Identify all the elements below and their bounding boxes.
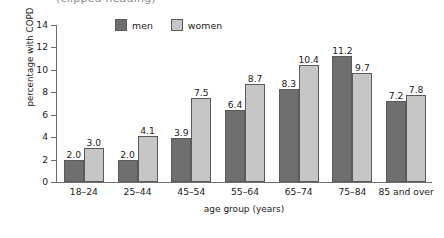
y-tick: 6 — [51, 115, 56, 116]
x-category-label: 45–54 — [177, 186, 205, 197]
y-tick-label: 8 — [42, 86, 48, 97]
bar-value-label: 10.4 — [298, 55, 318, 65]
bar-men: 11.2 — [332, 56, 352, 182]
x-category-label: 55–64 — [231, 186, 259, 197]
bar-women: 7.5 — [191, 98, 211, 182]
bar-value-label: 11.2 — [332, 46, 352, 56]
y-tick: 12 — [51, 47, 56, 48]
bar-women: 8.7 — [245, 84, 265, 182]
x-category-label: 18–24 — [70, 186, 98, 197]
y-tick-label: 6 — [42, 109, 48, 120]
x-axis-line — [56, 182, 432, 183]
plot-area: 02468101214 2.03.02.04.13.97.56.48.78.31… — [56, 25, 432, 182]
y-tick-label: 4 — [42, 131, 48, 142]
bar-women: 9.7 — [352, 73, 372, 182]
bar-women: 4.1 — [138, 136, 158, 182]
y-tick: 8 — [51, 92, 56, 93]
bar-men: 2.0 — [118, 160, 138, 182]
bar-value-label: 7.5 — [194, 88, 209, 98]
bar-women: 7.8 — [406, 95, 426, 182]
x-category-label: 85 and over — [378, 186, 433, 197]
x-axis-title: age group (years) — [56, 204, 432, 214]
x-category-label: 75–84 — [338, 186, 366, 197]
bar-value-label: 8.3 — [281, 79, 296, 89]
bar-men: 6.4 — [225, 110, 245, 182]
y-axis-line — [56, 25, 57, 182]
y-tick: 0 — [51, 182, 56, 183]
bar-value-label: 6.4 — [228, 100, 243, 110]
y-tick: 2 — [51, 160, 56, 161]
y-tick-label: 0 — [42, 176, 48, 187]
y-axis-title: percentage with COPD — [25, 0, 35, 127]
bar-men: 3.9 — [171, 138, 191, 182]
x-category-label: 65–74 — [285, 186, 313, 197]
copd-bar-chart: (clipped heading) percentage with COPD m… — [0, 0, 444, 238]
bar-value-label: 3.9 — [174, 128, 189, 138]
bar-value-label: 3.0 — [87, 138, 102, 148]
y-tick: 4 — [51, 137, 56, 138]
bar-men: 8.3 — [279, 89, 299, 182]
bar-value-label: 2.0 — [67, 150, 82, 160]
y-tick-label: 10 — [36, 64, 48, 75]
bar-men: 2.0 — [64, 160, 84, 182]
y-tick: 10 — [51, 70, 56, 71]
bar-women: 3.0 — [84, 148, 104, 182]
bar-value-label: 8.7 — [248, 74, 263, 84]
bar-women: 10.4 — [299, 65, 319, 182]
y-tick-label: 12 — [36, 41, 48, 52]
bar-value-label: 7.8 — [409, 85, 424, 95]
bar-value-label: 2.0 — [120, 150, 135, 160]
bar-value-label: 9.7 — [355, 63, 370, 73]
bar-value-label: 4.1 — [140, 126, 155, 136]
x-category-label: 25–44 — [124, 186, 152, 197]
y-tick-label: 2 — [42, 154, 48, 165]
y-tick: 14 — [51, 25, 56, 26]
bar-value-label: 7.2 — [389, 91, 404, 101]
y-tick-label: 14 — [36, 19, 48, 30]
clipped-heading: (clipped heading) — [0, 0, 444, 7]
bar-men: 7.2 — [386, 101, 406, 182]
